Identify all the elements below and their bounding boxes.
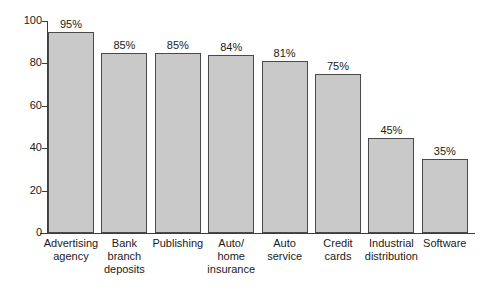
- bar[interactable]: [48, 32, 94, 233]
- bar[interactable]: [208, 55, 254, 233]
- y-axis-tick-label: 0: [8, 227, 42, 238]
- x-axis-category-label: Software: [414, 237, 476, 250]
- y-axis-tick-label: 80: [8, 57, 42, 68]
- x-axis-category-label-line: branch: [93, 250, 155, 263]
- bar[interactable]: [101, 53, 147, 233]
- bar-slot: 85%: [155, 21, 201, 233]
- bar-slot: 35%: [422, 21, 468, 233]
- bar[interactable]: [262, 61, 308, 233]
- bar-slot: 84%: [208, 21, 254, 233]
- y-axis-tick-label: 60: [8, 100, 42, 111]
- bar-value-label: 75%: [307, 60, 369, 72]
- bar-value-label: 81%: [254, 47, 316, 59]
- bar-value-label: 35%: [414, 145, 476, 157]
- bar-chart: 020406080100 95%85%85%84%81%75%45%35% Ad…: [0, 0, 498, 297]
- bar-slot: 45%: [368, 21, 414, 233]
- bar[interactable]: [368, 138, 414, 233]
- bar[interactable]: [155, 53, 201, 233]
- x-axis-category-label-line: distribution: [360, 250, 422, 263]
- y-axis-tick: [42, 233, 48, 234]
- bar-slot: 95%: [48, 21, 94, 233]
- x-axis-category-label-line: Software: [414, 237, 476, 250]
- bar-slot: 85%: [101, 21, 147, 233]
- y-axis-tick-label: 20: [8, 185, 42, 196]
- y-axis-tick-label: 100: [8, 15, 42, 26]
- bar-slot: 75%: [315, 21, 361, 233]
- bar[interactable]: [315, 74, 361, 233]
- bar-value-label: 45%: [360, 124, 422, 136]
- x-axis-line: [40, 233, 475, 234]
- x-axis-category-label-line: insurance: [200, 263, 262, 276]
- bar[interactable]: [422, 159, 468, 233]
- plot-area: 95%85%85%84%81%75%45%35%: [48, 21, 475, 233]
- bar-slot: 81%: [262, 21, 308, 233]
- bar-value-label: 95%: [40, 18, 102, 30]
- y-axis-tick-label: 40: [8, 142, 42, 153]
- x-axis-category-label-line: deposits: [93, 263, 155, 276]
